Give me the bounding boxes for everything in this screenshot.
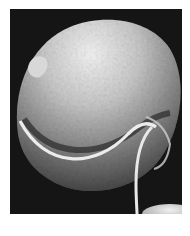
micrograph-image xyxy=(10,9,182,214)
micrograph-frame: Grayscale SEM image of a round textured … xyxy=(10,9,182,214)
cell-body xyxy=(17,20,181,191)
secondary-cell xyxy=(142,204,182,214)
